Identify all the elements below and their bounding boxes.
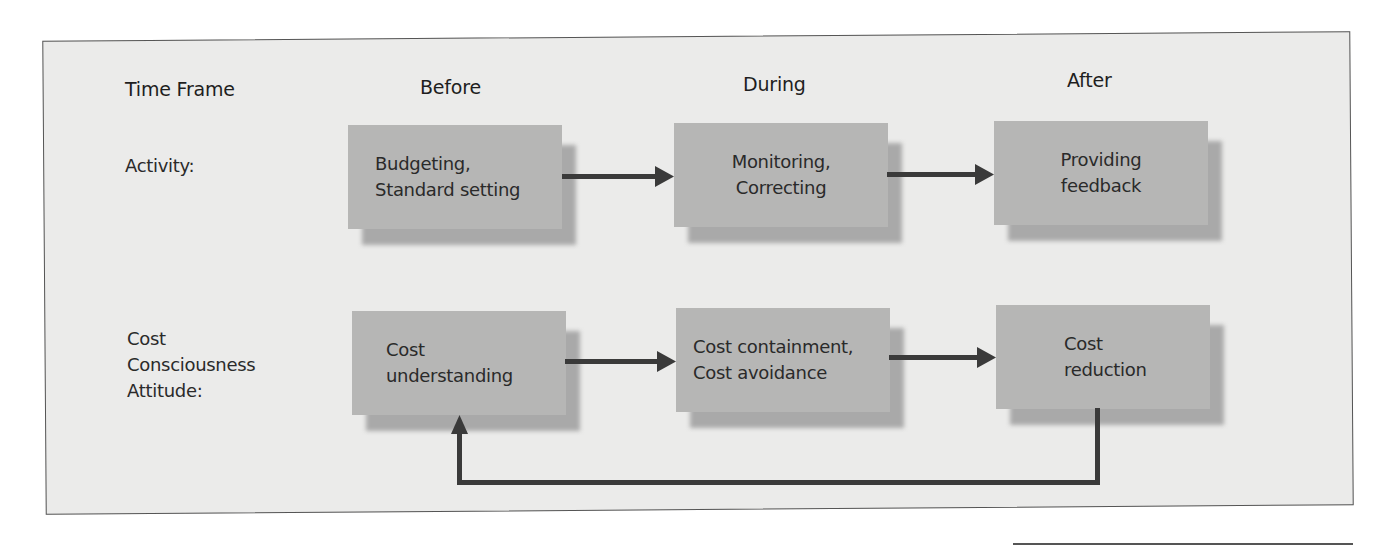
box-monitoring-body: Monitoring, Correcting <box>674 123 888 227</box>
box-text-line: reduction <box>1064 357 1147 383</box>
row-label-cost-line1: Cost <box>127 327 166 351</box>
box-budgeting-body: Budgeting, Standard setting <box>348 125 562 229</box>
box-text-line: Standard setting <box>375 177 520 203</box>
box-providing-feedback: Providing feedback <box>994 121 1208 225</box>
column-header-before: Before <box>420 75 481 99</box>
box-cost-reduction: Cost reduction <box>996 305 1210 409</box>
box-text-line: Budgeting, <box>375 151 470 177</box>
column-header-after: After <box>1067 68 1112 92</box>
box-text-line: Cost avoidance <box>693 360 827 386</box>
box-cost-understanding: Cost understanding <box>352 311 566 415</box>
time-frame-header: Time Frame <box>125 77 235 101</box>
box-text-line: understanding <box>386 363 513 389</box>
box-text-line: feedback <box>1061 173 1141 199</box>
column-header-during: During <box>743 72 806 96</box>
diagram-frame <box>42 31 1353 515</box>
box-text-line: Cost containment, <box>693 334 853 360</box>
box-cost-understanding-body: Cost understanding <box>352 311 566 415</box>
box-providing-feedback-body: Providing feedback <box>994 121 1208 225</box>
row-label-cost-line2: Consciousness <box>127 353 255 377</box>
box-monitoring: Monitoring, Correcting <box>674 123 888 227</box>
box-cost-containment-body: Cost containment, Cost avoidance <box>676 308 890 412</box>
box-text-line: Cost <box>1064 331 1103 357</box>
box-budgeting: Budgeting, Standard setting <box>348 125 562 229</box>
box-text-line: Correcting <box>736 175 827 201</box>
box-text-line: Cost <box>386 337 425 363</box>
row-label-activity: Activity: <box>125 154 194 178</box>
row-label-cost-line3: Attitude: <box>127 379 202 403</box>
box-text-line: Providing <box>1061 147 1142 173</box>
box-cost-reduction-body: Cost reduction <box>996 305 1210 409</box>
box-cost-containment: Cost containment, Cost avoidance <box>676 308 890 412</box>
bottom-rule <box>1013 543 1353 545</box>
box-text-line: Monitoring, <box>732 149 831 175</box>
